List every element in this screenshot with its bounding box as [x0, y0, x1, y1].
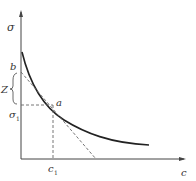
svg-text:1: 1: [54, 169, 58, 176]
svg-text:1: 1: [16, 115, 20, 122]
x-axis-label: c: [181, 167, 187, 178]
point-a-label: a: [56, 97, 62, 108]
diagram-canvas: σ c b a Z σ 1 c 1: [0, 0, 196, 181]
x-axis: [21, 157, 186, 161]
z-label: Z: [0, 84, 9, 95]
sigma-c-curve: [22, 52, 149, 145]
point-b-label: b: [10, 61, 16, 72]
z-brace: [10, 73, 17, 104]
c1-label: c 1: [48, 163, 58, 176]
y-axis: [19, 10, 23, 159]
tangent-line: [21, 72, 96, 159]
sigma1-label: σ 1: [9, 109, 20, 122]
y-axis-label: σ: [7, 21, 15, 34]
